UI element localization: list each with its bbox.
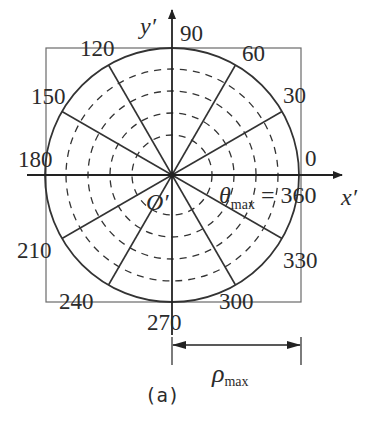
spoke-60 bbox=[172, 65, 236, 175]
angle-label-120: 120 bbox=[80, 36, 115, 61]
spoke-30 bbox=[172, 112, 282, 176]
theta-max-label: θmax= 360 bbox=[219, 182, 316, 212]
origin-label: O′ bbox=[146, 189, 169, 215]
spoke-120 bbox=[109, 65, 173, 175]
theta-symbol: θ bbox=[219, 182, 231, 208]
rho-symbol: ρ bbox=[211, 359, 224, 388]
angle-label-150: 150 bbox=[31, 84, 66, 109]
angle-label-0: 0 bbox=[305, 146, 317, 171]
polar-grid-diagram: 0306090120150180210240270300330 y′ x′ O′… bbox=[0, 0, 379, 424]
spoke-150 bbox=[62, 112, 172, 176]
rho-max-dimension bbox=[172, 337, 301, 365]
rho-max-label: ρmax bbox=[211, 359, 249, 389]
angle-label-270: 270 bbox=[147, 310, 182, 335]
angle-label-60: 60 bbox=[242, 41, 265, 66]
angle-label-180: 180 bbox=[18, 147, 53, 172]
angle-label-90: 90 bbox=[180, 21, 203, 46]
x-axis-label: x′ bbox=[340, 184, 358, 210]
origin-dot bbox=[169, 172, 175, 178]
theta-subscript: max bbox=[231, 197, 255, 212]
angle-label-240: 240 bbox=[59, 289, 94, 314]
angle-label-30: 30 bbox=[283, 83, 306, 108]
angle-label-300: 300 bbox=[219, 289, 254, 314]
rho-subscript: max bbox=[224, 374, 248, 389]
y-axis-label: y′ bbox=[138, 13, 157, 39]
angle-label-210: 210 bbox=[17, 238, 52, 263]
theta-value: = 360 bbox=[261, 182, 317, 208]
figure-caption: (a) bbox=[145, 384, 179, 406]
angle-label-330: 330 bbox=[283, 248, 318, 273]
